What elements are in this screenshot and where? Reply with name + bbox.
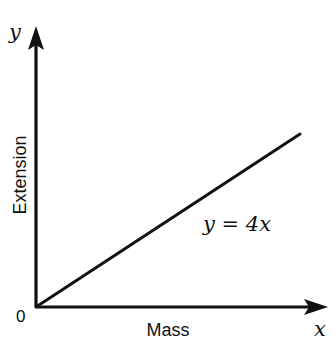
origin-label: 0	[16, 308, 25, 325]
y-axis-title: Extension	[11, 105, 29, 245]
y-axis-variable-label: y	[9, 22, 21, 43]
x-axis-variable-label: x	[314, 319, 326, 340]
equation-annotation: y = 4x	[203, 214, 271, 235]
x-axis-title: Mass	[146, 321, 189, 339]
